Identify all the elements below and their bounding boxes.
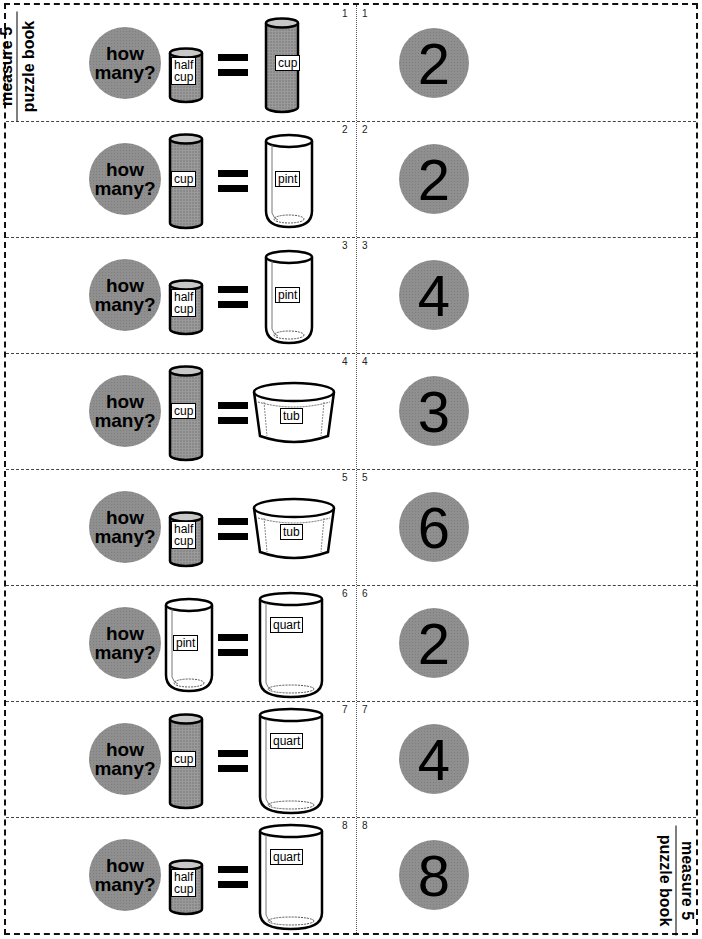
card-number-back: 3 xyxy=(362,240,368,251)
puzzle-card-row: 7 7 how many? cup quart 4 xyxy=(6,701,696,817)
how-many-line2: many? xyxy=(94,643,155,662)
large-vessel-label: pint xyxy=(275,171,300,187)
small-vessel-label: cup xyxy=(171,171,196,187)
brand-label-right: measure 5 puzzle book xyxy=(657,826,696,936)
answer-badge: 2 xyxy=(399,28,469,98)
how-many-line2: many? xyxy=(94,875,155,894)
quart-glass-icon: quart xyxy=(258,591,324,699)
puzzle-card-row: 1 1 how many? halfcup cup 2 xyxy=(6,5,696,121)
card-number-back: 4 xyxy=(362,356,368,367)
card-number-front: 7 xyxy=(342,704,348,715)
how-many-line1: how xyxy=(106,392,144,411)
equals-sign-icon xyxy=(218,750,248,772)
how-many-badge: how many? xyxy=(89,375,161,447)
equals-sign-icon xyxy=(218,402,248,424)
how-many-badge: how many? xyxy=(89,723,161,795)
cup-can-icon: cup xyxy=(264,17,300,113)
how-many-line1: how xyxy=(106,44,144,63)
puzzle-sheet: 1 1 how many? halfcup cup 2 2 2 xyxy=(4,3,698,935)
small-vessel-label: halfcup xyxy=(171,57,196,85)
brand-title-line2: puzzle book xyxy=(657,826,676,936)
answer-badge: 6 xyxy=(399,492,469,562)
large-vessel-label: quart xyxy=(270,849,303,865)
small-vessel-label: cup xyxy=(171,403,196,419)
brand-title-line1: measure 5 xyxy=(676,826,696,936)
puzzle-card-row: 5 5 how many? halfcup tub 6 xyxy=(6,469,696,585)
quart-glass-icon: quart xyxy=(258,707,324,815)
card-number-front: 3 xyxy=(342,240,348,251)
how-many-badge: how many? xyxy=(89,143,161,215)
large-vessel-label: quart xyxy=(270,733,303,749)
how-many-line2: many? xyxy=(94,295,155,314)
card-number-back: 5 xyxy=(362,472,368,483)
equals-sign-icon xyxy=(218,866,248,888)
cup-can-icon: cup xyxy=(168,133,204,229)
card-number-back: 1 xyxy=(362,8,368,19)
puzzle-card-row: 3 3 how many? halfcup pint 4 xyxy=(6,237,696,353)
large-vessel-label: tub xyxy=(280,408,303,424)
large-vessel-label: tub xyxy=(280,524,303,540)
answer-badge: 4 xyxy=(399,724,469,794)
card-number-front: 4 xyxy=(342,356,348,367)
half-cup-can-icon: halfcup xyxy=(168,279,204,335)
small-vessel-label: cup xyxy=(171,751,196,767)
large-vessel-label: cup xyxy=(275,55,300,71)
brand-title-line2: puzzle book xyxy=(18,12,37,122)
how-many-badge: how many? xyxy=(89,491,161,563)
how-many-badge: how many? xyxy=(89,607,161,679)
card-number-front: 5 xyxy=(342,472,348,483)
answer-badge: 2 xyxy=(399,608,469,678)
small-vessel-label: halfcup xyxy=(171,521,196,549)
large-vessel-label: quart xyxy=(270,617,303,633)
pint-glass-icon: pint xyxy=(164,597,214,693)
brand-label-left: measure 5 puzzle book xyxy=(0,12,37,122)
equals-sign-icon xyxy=(218,54,248,76)
card-number-back: 7 xyxy=(362,704,368,715)
answer-badge: 8 xyxy=(399,840,469,910)
tub-icon: tub xyxy=(252,380,336,446)
small-vessel-label: pint xyxy=(173,635,198,651)
how-many-line1: how xyxy=(106,856,144,875)
small-vessel-label: halfcup xyxy=(171,289,196,317)
how-many-line2: many? xyxy=(94,179,155,198)
half-cup-can-icon: halfcup xyxy=(168,511,204,567)
equals-sign-icon xyxy=(218,286,248,308)
how-many-line1: how xyxy=(106,740,144,759)
how-many-line1: how xyxy=(106,508,144,527)
large-vessel-label: pint xyxy=(275,287,300,303)
small-vessel-label: halfcup xyxy=(171,869,196,897)
how-many-line2: many? xyxy=(94,63,155,82)
half-cup-can-icon: halfcup xyxy=(168,859,204,915)
card-number-front: 2 xyxy=(342,124,348,135)
half-cup-can-icon: halfcup xyxy=(168,47,204,103)
puzzle-card-row: 4 4 how many? cup tub 3 xyxy=(6,353,696,469)
card-number-back: 2 xyxy=(362,124,368,135)
cup-can-icon: cup xyxy=(168,713,204,809)
how-many-line1: how xyxy=(106,276,144,295)
how-many-line2: many? xyxy=(94,527,155,546)
card-number-front: 8 xyxy=(342,820,348,831)
how-many-line2: many? xyxy=(94,759,155,778)
how-many-badge: how many? xyxy=(89,27,161,99)
answer-badge: 2 xyxy=(399,144,469,214)
how-many-line1: how xyxy=(106,160,144,179)
puzzle-card-row: 8 8 how many? halfcup quart 8 xyxy=(6,817,696,933)
card-number-back: 6 xyxy=(362,588,368,599)
card-number-front: 6 xyxy=(342,588,348,599)
card-number-front: 1 xyxy=(342,8,348,19)
equals-sign-icon xyxy=(218,170,248,192)
answer-badge: 4 xyxy=(399,260,469,330)
tub-icon: tub xyxy=(252,496,336,562)
cup-can-icon: cup xyxy=(168,365,204,461)
how-many-badge: how many? xyxy=(89,259,161,331)
brand-title-line1: measure 5 xyxy=(0,12,18,122)
pint-glass-icon: pint xyxy=(264,249,314,345)
quart-glass-icon: quart xyxy=(258,823,324,931)
how-many-line2: many? xyxy=(94,411,155,430)
answer-badge: 3 xyxy=(399,376,469,446)
puzzle-card-row: 6 6 how many? pint quart 2 xyxy=(6,585,696,701)
how-many-line1: how xyxy=(106,624,144,643)
equals-sign-icon xyxy=(218,634,248,656)
card-number-back: 8 xyxy=(362,820,368,831)
pint-glass-icon: pint xyxy=(264,133,314,229)
